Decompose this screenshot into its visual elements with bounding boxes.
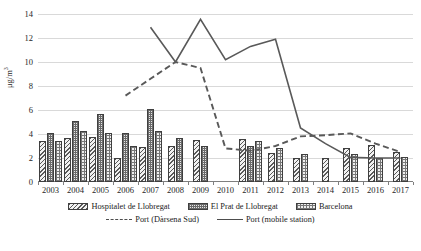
- line-series: [126, 62, 401, 152]
- legend-item[interactable]: Port (mobile station): [217, 215, 315, 224]
- y-axis-title: μg/m3: [3, 67, 14, 88]
- line-series-layer: [38, 14, 413, 182]
- x-axis-tick-label: 2007: [138, 182, 163, 198]
- x-axis-tick-label: 2009: [188, 182, 213, 198]
- x-axis-tick-mark: [163, 182, 164, 185]
- legend-item[interactable]: El Prat de Llobregat: [188, 202, 278, 211]
- legend-row-lines: Port (Dàrsena Sud)Port (mobile station): [0, 213, 421, 226]
- y-axis-tick-label: 14: [25, 10, 34, 19]
- x-axis-tick-label: 2004: [63, 182, 88, 198]
- x-axis-tick-label: 2008: [163, 182, 188, 198]
- legend-label: El Prat de Llobregat: [211, 202, 278, 211]
- legend-row-bars: Hospitalet de LlobregatEl Prat de Llobre…: [0, 200, 421, 213]
- x-axis: 2003200420052006200720082009201020112012…: [38, 182, 413, 198]
- y-axis-title-text: μg/m: [4, 70, 14, 88]
- legend-label: Port (mobile station): [246, 215, 315, 224]
- y-axis-tick-label: 8: [29, 82, 33, 91]
- x-axis-tick-mark: [313, 182, 314, 185]
- x-axis-tick-mark: [63, 182, 64, 185]
- y-axis-tick-label: 6: [29, 106, 33, 115]
- y-axis-title-exponent: 3: [3, 67, 9, 70]
- coarse-grid-swatch: [296, 203, 316, 210]
- solid-line-swatch: [217, 219, 243, 220]
- plot-area: 02468101214: [38, 14, 413, 182]
- x-axis-tick-mark: [388, 182, 389, 185]
- x-axis-tick-mark: [238, 182, 239, 185]
- x-axis-tick-mark: [38, 182, 39, 185]
- x-axis-tick-mark: [213, 182, 214, 185]
- x-axis-tick-label: 2013: [288, 182, 313, 198]
- x-axis-tick-label: 2012: [263, 182, 288, 198]
- y-axis-tick-label: 12: [25, 34, 34, 43]
- x-axis-tick-mark: [113, 182, 114, 185]
- x-axis-tick-label: 2016: [363, 182, 388, 198]
- x-axis-tick-label: 2011: [238, 182, 263, 198]
- chart-legend: Hospitalet de LlobregatEl Prat de Llobre…: [0, 200, 421, 226]
- x-axis-tick-label: 2017: [388, 182, 413, 198]
- y-axis-tick-label: 4: [29, 130, 33, 139]
- x-axis-tick-mark: [288, 182, 289, 185]
- legend-label: Hospitalet de Llobregat: [91, 202, 169, 211]
- hatch-swatch: [68, 203, 88, 210]
- x-axis-tick-mark: [263, 182, 264, 185]
- x-axis-tick-mark: [88, 182, 89, 185]
- legend-item[interactable]: Barcelona: [296, 202, 353, 211]
- x-axis-tick-label: 2014: [313, 182, 338, 198]
- x-axis-tick-label: 2006: [113, 182, 138, 198]
- legend-label: Barcelona: [319, 202, 353, 211]
- x-axis-tick-label: 2010: [213, 182, 238, 198]
- y-axis-tick-label: 10: [25, 58, 34, 67]
- dashed-line-swatch: [106, 219, 132, 220]
- x-axis-tick-mark: [338, 182, 339, 185]
- legend-label: Port (Dàrsena Sud): [135, 215, 199, 224]
- x-axis-tick-mark: [413, 182, 414, 185]
- line-series: [151, 19, 401, 158]
- x-axis-tick-mark: [138, 182, 139, 185]
- chart-container: μg/m3 02468101214 2003200420052006200720…: [0, 0, 421, 251]
- y-axis-tick-label: 2: [29, 154, 33, 163]
- x-axis-tick-label: 2015: [338, 182, 363, 198]
- fine-grid-swatch: [188, 203, 208, 210]
- legend-item[interactable]: Port (Dàrsena Sud): [106, 215, 199, 224]
- y-axis-tick-label: 0: [29, 178, 33, 187]
- x-axis-tick-mark: [188, 182, 189, 185]
- legend-item[interactable]: Hospitalet de Llobregat: [68, 202, 169, 211]
- x-axis-tick-mark: [363, 182, 364, 185]
- x-axis-tick-label: 2005: [88, 182, 113, 198]
- x-axis-tick-label: 2003: [38, 182, 63, 198]
